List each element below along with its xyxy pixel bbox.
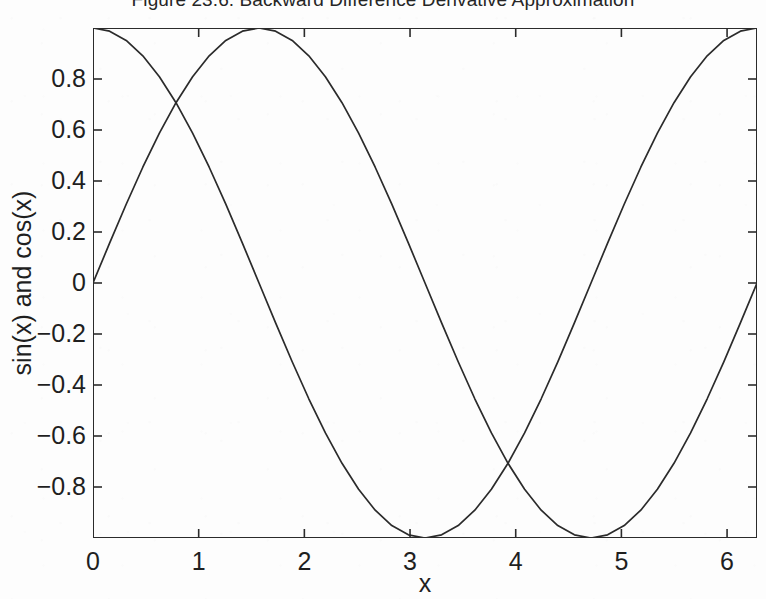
figure-page: Figure 23.6. Backward Difference Derivat… (0, 0, 766, 599)
curve-sinx (93, 28, 757, 538)
x-tick-label: 2 (274, 549, 334, 574)
plot-curves (93, 28, 757, 538)
x-tick-label: 0 (63, 549, 123, 574)
x-tick-label: 4 (486, 549, 546, 574)
x-tick-label: 5 (591, 549, 651, 574)
x-axis-label: x (419, 571, 432, 596)
x-tick-label: 6 (697, 549, 757, 574)
x-tick-label: 1 (169, 549, 229, 574)
y-axis-label: sin(x) and cos(x) (10, 191, 35, 376)
